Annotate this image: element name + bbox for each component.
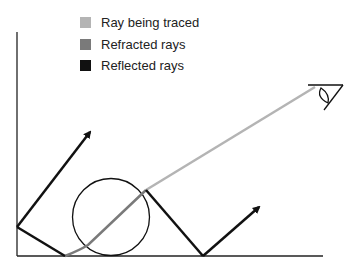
reflected-ray-floor (146, 190, 203, 256)
reflected-ray-right-arrow (203, 207, 259, 256)
traced-ray (146, 87, 315, 190)
reflected-ray-wall (17, 227, 65, 256)
sphere (73, 179, 150, 256)
reflected-ray-up-arrow (17, 132, 90, 227)
ray-diagram (0, 0, 357, 265)
